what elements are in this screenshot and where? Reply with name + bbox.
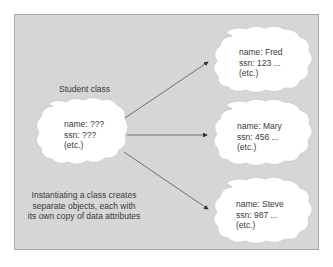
caption-line-1: Instantiating a class creates [26, 190, 142, 201]
instance-fred-text: name: Fred ssn: 123 ... (etc.) [239, 47, 282, 79]
mary-etc: (etc.) [237, 142, 282, 153]
instance-mary-text: name: Mary ssn: 456 ... (etc.) [237, 121, 282, 153]
steve-name: name: Steve [236, 199, 284, 210]
class-cloud-text: name: ??? ssn: ??? (etc.) [64, 119, 104, 151]
steve-ssn: ssn: 987 ... [236, 210, 284, 221]
caption: Instantiating a class creates separate o… [26, 190, 142, 222]
class-attr-name: name: ??? [64, 119, 104, 130]
arrow-to-fred [125, 62, 208, 118]
class-attr-ssn: ssn: ??? [64, 130, 104, 141]
caption-line-2: separate objects, each with [26, 201, 142, 212]
fred-name: name: Fred [239, 47, 282, 58]
class-label: Student class [59, 84, 110, 95]
instance-steve-text: name: Steve ssn: 987 ... (etc.) [236, 199, 284, 231]
mary-ssn: ssn: 456 ... [237, 132, 282, 143]
fred-etc: (etc.) [239, 68, 282, 79]
fred-ssn: ssn: 123 ... [239, 58, 282, 69]
class-attr-etc: (etc.) [64, 140, 104, 151]
steve-etc: (etc.) [236, 220, 284, 231]
caption-line-3: its own copy of data attributes [26, 211, 142, 222]
mary-name: name: Mary [237, 121, 282, 132]
